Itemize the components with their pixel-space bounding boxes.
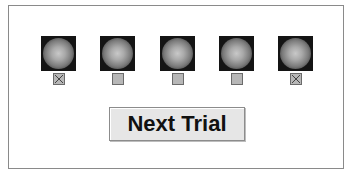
checkbox-5[interactable] (290, 73, 302, 85)
next-trial-button[interactable]: Next Trial (109, 107, 245, 141)
checkbox-1[interactable] (53, 73, 65, 85)
experiment-panel (8, 5, 344, 169)
checkbox-3[interactable] (172, 73, 184, 85)
sphere-image (43, 38, 74, 69)
stimulus-5 (278, 36, 313, 71)
stimulus-2 (100, 36, 135, 71)
sphere-image (221, 38, 252, 69)
check-x-icon (54, 74, 64, 84)
checkbox-4[interactable] (231, 73, 243, 85)
sphere-image (162, 38, 193, 69)
stimulus-3 (160, 36, 195, 71)
stimulus-1 (41, 36, 76, 71)
sphere-image (280, 38, 311, 69)
check-x-icon (291, 74, 301, 84)
stimulus-4 (219, 36, 254, 71)
sphere-image (102, 38, 133, 69)
checkbox-2[interactable] (112, 73, 124, 85)
